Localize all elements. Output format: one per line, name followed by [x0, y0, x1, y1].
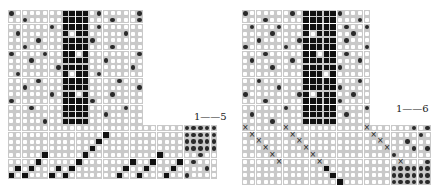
threading-cell	[136, 138, 143, 145]
drawdown-cell	[49, 78, 56, 85]
drawdown-cell	[76, 51, 83, 58]
threading-cell	[136, 159, 143, 166]
drawdown-cell	[256, 51, 263, 58]
drawdown-cell	[316, 91, 323, 98]
drawdown-cell	[343, 44, 350, 51]
drawdown-cell	[96, 64, 103, 71]
threading-cell	[170, 152, 177, 159]
drawdown-cell	[269, 84, 276, 91]
drawdown-cell	[22, 24, 29, 31]
drawdown-cell	[283, 78, 290, 85]
drawdown-cell	[136, 17, 143, 24]
threading-cell	[22, 145, 29, 152]
threading-cell	[404, 145, 411, 152]
drawdown-cell	[89, 24, 96, 31]
drawdown-cell	[357, 51, 364, 58]
drawdown-cell	[82, 30, 89, 37]
drawdown-cell	[364, 111, 371, 118]
drawdown-cell	[343, 84, 350, 91]
threading-cell	[123, 132, 130, 139]
threading-cell	[103, 145, 110, 152]
threading-cell	[123, 159, 130, 166]
drawdown-cell	[76, 98, 83, 105]
drawdown-cell	[109, 24, 116, 31]
drawdown-cell	[256, 118, 263, 125]
threading-cell	[109, 152, 116, 159]
drawdown-cell	[323, 57, 330, 64]
drawdown-cell	[276, 111, 283, 118]
threading-cell	[350, 159, 357, 166]
drawdown-cell	[296, 111, 303, 118]
drawdown-cell	[289, 91, 296, 98]
drawdown-cell	[289, 17, 296, 24]
threading-cell	[82, 125, 89, 132]
threading-cell	[136, 125, 143, 132]
drawdown-cell	[35, 37, 42, 44]
threading-cell	[337, 132, 344, 139]
threading-cell	[197, 159, 204, 166]
drawdown-cell	[103, 78, 110, 85]
drawdown-cell	[103, 51, 110, 58]
threading-cell	[256, 145, 263, 152]
drawdown-cell	[296, 44, 303, 51]
threading-cell	[96, 165, 103, 172]
threading-cell	[384, 159, 391, 166]
drawdown-cell	[276, 10, 283, 17]
threading-cell	[49, 159, 56, 166]
threading-cell	[370, 159, 377, 166]
drawdown-cell	[109, 64, 116, 71]
drawdown-cell	[89, 84, 96, 91]
threading-cell	[89, 132, 96, 139]
threading-cell	[163, 165, 170, 172]
threading-cell	[136, 145, 143, 152]
treadle-range-label-left: 1——5	[194, 111, 227, 122]
drawdown-cell	[116, 105, 123, 112]
threading-cell	[42, 138, 49, 145]
drawdown-cell	[262, 57, 269, 64]
drawdown-cell	[35, 118, 42, 125]
drawdown-cell	[130, 111, 137, 118]
drawdown-cell	[256, 37, 263, 44]
threading-cell	[418, 179, 425, 186]
threading-cell	[22, 132, 29, 139]
drawdown-cell	[289, 44, 296, 51]
drawdown-cell	[55, 37, 62, 44]
drawdown-cell	[310, 30, 317, 37]
threading-cell	[204, 138, 211, 145]
drawdown-cell	[337, 57, 344, 64]
drawdown-cell	[343, 51, 350, 58]
drawdown-cell	[242, 44, 249, 51]
threading-cell	[103, 159, 110, 166]
threading-cell	[123, 165, 130, 172]
drawdown-cell	[89, 111, 96, 118]
drawdown-cell	[15, 57, 22, 64]
threading-cell	[262, 179, 269, 186]
threading-cell	[82, 159, 89, 166]
drawdown-cell	[76, 91, 83, 98]
threading-cell	[109, 172, 116, 179]
drawdown-cell	[42, 44, 49, 51]
drawdown-cell	[15, 105, 22, 112]
threading-cell	[330, 172, 337, 179]
drawdown-cell	[8, 24, 15, 31]
drawdown-cell	[343, 78, 350, 85]
threading-cell	[8, 138, 15, 145]
drawdown-cell	[303, 84, 310, 91]
drawdown-cell	[330, 64, 337, 71]
drawdown-cell	[116, 10, 123, 17]
drawdown-cell	[289, 51, 296, 58]
drawdown-cell	[296, 57, 303, 64]
drawdown-cell	[62, 57, 69, 64]
drawdown-cell	[69, 84, 76, 91]
drawdown-cell	[343, 118, 350, 125]
threading-cell	[350, 179, 357, 186]
threading-cell	[150, 138, 157, 145]
threading-cell	[190, 125, 197, 132]
drawdown-cell	[8, 111, 15, 118]
drawdown-cell	[82, 105, 89, 112]
drawdown-cell	[350, 105, 357, 112]
drawdown-cell	[42, 57, 49, 64]
threading-cell	[89, 145, 96, 152]
drawdown-cell	[337, 24, 344, 31]
threading-cell	[397, 132, 404, 139]
